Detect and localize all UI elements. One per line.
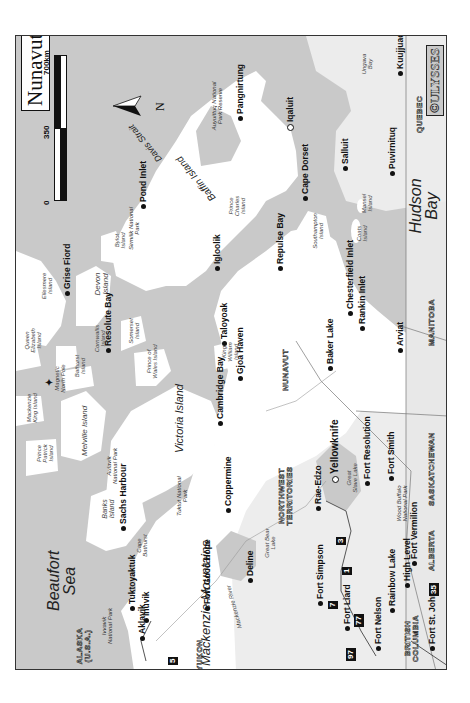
city-high-level: High Level [403, 538, 412, 588]
highway-3-shield: 3 [336, 537, 346, 545]
alberta-region-label: ALBERTA [428, 530, 436, 571]
city-dot-icon [121, 526, 126, 531]
city-dot-icon [278, 266, 283, 271]
city-salluit: Salluit [341, 138, 350, 171]
city-dot-icon [140, 636, 145, 641]
city-dot-icon [390, 171, 395, 176]
city-dot-icon [328, 366, 333, 371]
city-dot-icon [430, 646, 435, 651]
sirmilik-park-label: Sirmilik National Park [128, 206, 140, 251]
city-dot-icon [238, 376, 243, 381]
city-fort-st-john: Fort St. John [428, 592, 437, 651]
city-taloyoak: Taloyoak [220, 303, 229, 346]
scale-350: 350 [42, 126, 51, 139]
great-bear-lake-label: Great Bear Lake [264, 523, 276, 563]
city-dot-icon [318, 601, 323, 606]
city-fort-simpson: Fort Simpson [316, 544, 325, 606]
beaufort-sea-label: Beaufort Sea [46, 551, 78, 611]
highway-1-shield: 1 [342, 567, 352, 575]
banks-island-label: Banks Island [101, 495, 115, 523]
city-dot-icon [222, 341, 227, 346]
capital-marker-icon [287, 124, 294, 131]
victoria-island-label: Victoria Island [174, 384, 185, 453]
city-dot-icon [248, 578, 253, 583]
melville-island-label: Melville Island [81, 406, 89, 456]
city-deline: Deline [246, 550, 255, 583]
hudson-bay-label: Hudson Bay [408, 171, 440, 241]
city-dot-icon [215, 266, 220, 271]
manitoba-region-label: MANITOBA [428, 299, 436, 346]
city-rankin-inlet: Rankin Inlet [358, 276, 367, 331]
city-coppermine: Coppermine [224, 456, 233, 513]
queen-elizabeth-island-label: Queen Elizabeth Island [24, 323, 42, 358]
city-dot-icon [218, 421, 223, 426]
highway-77-shield: 77 [354, 614, 364, 627]
city-iqaluit: Iqaluit [286, 97, 295, 131]
mackenzie-king-island-label: Mackenzie King Island [26, 393, 38, 423]
city-gjoa-haven: Gjoa Haven [236, 327, 245, 381]
bylot-island-label: Bylot Island [114, 228, 126, 253]
highway-97-shield: 97 [346, 648, 356, 661]
highway-7-shield: 7 [328, 601, 338, 609]
city-fort-smith: Fort Smith [387, 432, 396, 482]
city-dot-icon [348, 311, 353, 316]
city-dot-icon [412, 561, 417, 566]
nunavut-region-label: NUNAVUT [282, 349, 290, 391]
quebec-region-label: QUEBEC [416, 96, 424, 133]
coats-island-label: Coats Island [356, 221, 368, 246]
city-dot-icon [389, 476, 394, 481]
city-rainbow-lake: Rainbow Lake [388, 549, 397, 613]
city-dot-icon [303, 196, 308, 201]
cape-bathurst-label: Cape Bathurst [136, 533, 148, 558]
city-fort-good-hope: Fort Good Hope [203, 539, 212, 611]
city-dot-icon [405, 583, 410, 588]
auyuittuq-park-label: Auyuittuq National Park Reserve [211, 81, 223, 131]
southampton-island-label: Southampton Island [312, 211, 324, 251]
city-pond-inlet: Pond Inlet [139, 161, 148, 209]
city-dot-icon [106, 348, 111, 353]
city-pangnirtung: Pangnirtung [236, 64, 245, 121]
city-dot-icon [238, 116, 243, 121]
city-fort-nelson: Fort Nelson [374, 597, 383, 651]
city-dot-icon [398, 71, 403, 76]
city-dot-icon [226, 508, 231, 513]
city-resolute-bay: Resolute Bay [104, 292, 113, 353]
city-yellowknife: Yellowknife [330, 420, 340, 483]
city-rae-edzo: Rae-Edzo [314, 465, 323, 511]
prince-patrick-island-label: Prince Patrick Island [36, 436, 54, 471]
city-dot-icon [390, 608, 395, 613]
city-chesterfield-inlet: Chesterfield Inlet [346, 240, 355, 316]
ungava-bay-label: Ungava Bay [361, 49, 373, 79]
city-fort-liard: Fort Liard [343, 584, 352, 631]
city-grise-fiord: Grise Fiord [63, 244, 72, 296]
tuktut-park-label: Tuktut National Park [176, 476, 188, 516]
highway-35-shield: 35 [429, 583, 439, 596]
city-dot-icon [130, 606, 135, 611]
city-repulse-bay: Repulse Bay [276, 213, 285, 271]
city-puvirnituq: Puvirnituq [388, 127, 397, 176]
compass-north-arrow-icon [111, 86, 151, 126]
nwt-region-label: NORTHWEST TERRITORIES [278, 461, 295, 531]
nunavut-map: Nunavut 0 350 700km N ©ULYSSES Beaufort … [16, 36, 447, 670]
magnetic-pole-star-icon: ✦ [43, 378, 56, 387]
city-dot-icon [205, 606, 210, 611]
city-dot-icon [365, 481, 370, 486]
prince-charles-island-label: Prince Charles Island [228, 191, 246, 221]
city-igloolik: Igloolik [213, 234, 222, 271]
city-dot-icon [316, 506, 321, 511]
map-frame: Nunavut 0 350 700km N ©ULYSSES Beaufort … [15, 35, 447, 670]
city-cape-dorset: Cape Dorset [301, 144, 310, 201]
ellesmere-island-label: Ellesmere Island [41, 271, 53, 301]
copyright-ulysses: ©ULYSSES [426, 45, 444, 116]
city-dot-icon [398, 348, 403, 353]
city-dot-icon [65, 291, 70, 296]
city-cambridge-bay: Cambridge Bay [216, 357, 225, 426]
yukon-region-label: YUKON [196, 640, 204, 670]
somerset-island-label: Somerset Island [128, 316, 140, 346]
ivvavik-park-label: Ivvavik National Park [101, 606, 113, 646]
city-kuujjuaq: Kuujjuaq [396, 35, 405, 76]
aulavik-park-label: Aulavik National Park [106, 446, 118, 486]
mansel-island-label: Mansel Island [361, 191, 373, 216]
city-baker-lake: Baker Lake [326, 319, 335, 371]
compass-n-label: N [154, 102, 166, 111]
